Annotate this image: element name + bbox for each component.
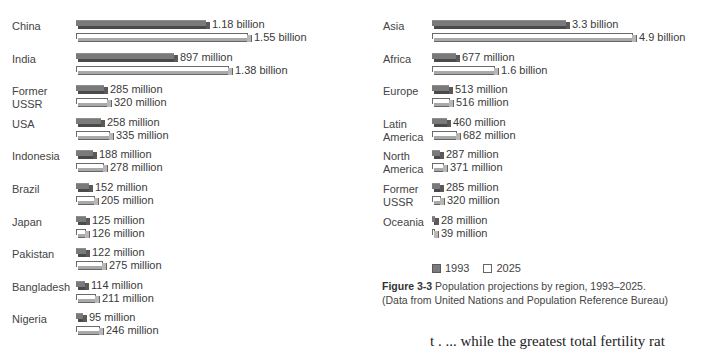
bar-1993 xyxy=(76,216,90,225)
legend-label-1993: 1993 xyxy=(445,262,469,274)
bar-1993 xyxy=(76,183,93,192)
bar-2025 xyxy=(432,196,445,205)
bar-1993 xyxy=(76,313,87,322)
value-label-1993: 188 million xyxy=(99,148,152,160)
bar-1993 xyxy=(432,183,444,192)
body-text-cutoff: t . ... while the greatest total fertili… xyxy=(430,333,665,350)
bar-group-usa: USA258 million335 million xyxy=(0,118,340,151)
bar-group-pakistan: Pakistan122 million275 million xyxy=(0,248,340,281)
value-label-2025: 1.38 billion xyxy=(235,64,288,76)
bar-2025 xyxy=(432,66,499,75)
bar-group-brazil: Brazil152 million205 million xyxy=(0,183,340,216)
bar-2025 xyxy=(76,326,104,335)
value-label-1993: 460 million xyxy=(453,116,506,128)
bar-2025 xyxy=(76,261,107,270)
bar-2025 xyxy=(76,229,90,238)
value-label-1993: 285 million xyxy=(446,181,499,193)
category-label: Europe xyxy=(383,85,418,98)
bar-1993 xyxy=(76,20,210,29)
value-label-1993: 3.3 billion xyxy=(572,18,618,30)
category-label: Africa xyxy=(383,53,411,66)
bar-group-bangladesh: Bangladesh114 million211 million xyxy=(0,281,340,314)
value-label-2025: 682 million xyxy=(463,129,516,141)
bar-1993 xyxy=(432,20,570,29)
value-label-1993: 258 million xyxy=(107,116,160,128)
figure-number: Figure 3-3 xyxy=(382,280,432,292)
bar-group-former-ussr: Former USSR285 million320 million xyxy=(372,183,707,216)
bar-1993 xyxy=(432,216,439,225)
value-label-2025: 39 million xyxy=(441,227,487,239)
value-label-2025: 126 million xyxy=(92,227,145,239)
bar-group-japan: Japan125 million126 million xyxy=(0,216,340,249)
bar-1993 xyxy=(76,281,89,290)
value-label-2025: 275 million xyxy=(109,259,162,271)
figure-caption-text: Population projections by region, 1993–2… xyxy=(435,280,646,292)
value-label-1993: 28 million xyxy=(441,214,487,226)
bar-group-indonesia: Indonesia188 million278 million xyxy=(0,150,340,183)
bar-2025 xyxy=(76,66,233,75)
bar-2025 xyxy=(76,196,99,205)
value-label-2025: 205 million xyxy=(101,194,154,206)
value-label-1993: 897 million xyxy=(180,51,233,63)
category-label: Brazil xyxy=(12,183,40,196)
country-population-chart: China1.18 billion1.55 billionIndia897 mi… xyxy=(0,0,340,342)
value-label-1993: 95 million xyxy=(89,311,135,323)
bar-2025 xyxy=(76,131,114,140)
value-label-1993: 677 million xyxy=(462,51,515,63)
category-label: Asia xyxy=(383,20,404,33)
category-label: Bangladesh xyxy=(12,281,70,294)
value-label-2025: 1.55 billion xyxy=(254,31,307,43)
legend-label-2025: 2025 xyxy=(496,262,520,274)
bar-2025 xyxy=(432,98,454,107)
value-label-1993: 285 million xyxy=(110,83,163,95)
bar-1993 xyxy=(76,150,97,159)
bar-group-europe: Europe513 million516 million xyxy=(372,85,707,118)
bar-group-africa: Africa677 million1.6 billion xyxy=(372,53,707,86)
value-label-1993: 125 million xyxy=(92,214,145,226)
value-label-1993: 114 million xyxy=(91,279,143,291)
value-label-2025: 278 million xyxy=(110,161,163,173)
value-label-2025: 4.9 billion xyxy=(639,31,685,43)
category-label: Japan xyxy=(12,216,42,229)
bar-1993 xyxy=(432,150,444,159)
bar-1993 xyxy=(76,53,178,62)
value-label-1993: 1.18 billion xyxy=(212,18,265,30)
category-label: Latin America xyxy=(383,118,423,144)
legend-swatch-2025-icon xyxy=(483,264,492,273)
bar-1993 xyxy=(432,118,451,127)
value-label-1993: 513 million xyxy=(455,83,508,95)
bar-2025 xyxy=(432,163,448,172)
value-label-1993: 287 million xyxy=(446,148,499,160)
category-label: Former USSR xyxy=(383,183,418,209)
figure-caption-source: (Data from United Nations and Population… xyxy=(382,294,668,306)
value-label-2025: 371 million xyxy=(450,161,503,173)
bar-1993 xyxy=(76,85,108,94)
category-label: Indonesia xyxy=(12,150,60,163)
value-label-1993: 122 million xyxy=(92,246,145,258)
category-label: Nigeria xyxy=(12,313,47,326)
bar-2025 xyxy=(76,294,100,303)
legend-item-2025: 2025 xyxy=(483,262,520,274)
value-label-2025: 211 million xyxy=(102,292,154,304)
region-population-chart: 1993 2025 Figure 3-3 Population projecti… xyxy=(372,0,707,342)
value-label-2025: 320 million xyxy=(114,96,167,108)
bar-2025 xyxy=(76,163,108,172)
category-label: Former USSR xyxy=(12,85,47,111)
category-label: USA xyxy=(12,118,35,131)
category-label: North America xyxy=(383,150,423,176)
value-label-2025: 335 million xyxy=(116,129,169,141)
bar-group-china: China1.18 billion1.55 billion xyxy=(0,20,340,53)
bar-2025 xyxy=(432,131,461,140)
bar-1993 xyxy=(76,118,105,127)
bar-group-india: India897 million1.38 billion xyxy=(0,53,340,86)
bar-group-north-america: North America287 million371 million xyxy=(372,150,707,183)
legend-item-1993: 1993 xyxy=(432,262,469,274)
value-label-2025: 516 million xyxy=(456,96,509,108)
category-label: Pakistan xyxy=(12,248,54,261)
bar-2025 xyxy=(432,33,637,42)
value-label-2025: 246 million xyxy=(106,324,159,336)
bar-group-asia: Asia3.3 billion4.9 billion xyxy=(372,20,707,53)
figure-caption: Figure 3-3 Population projections by reg… xyxy=(382,279,702,307)
bar-1993 xyxy=(432,53,460,62)
bar-group-nigeria: Nigeria95 million246 million xyxy=(0,313,340,346)
